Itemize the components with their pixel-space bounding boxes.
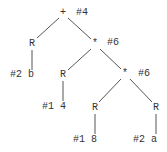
node-plus: + (60, 8, 66, 18)
node-r-left: R (29, 39, 35, 49)
node-mul-2: * (122, 69, 128, 79)
leaf-left: #2 b (10, 70, 34, 80)
leaf-a: #1 8 (73, 135, 97, 145)
node-plus-annotation: #4 (76, 8, 88, 18)
node-r-a: R (92, 103, 98, 113)
node-mul-1: * (92, 39, 98, 49)
node-r-mid: R (60, 70, 66, 80)
leaf-mid: #1 4 (42, 102, 66, 112)
node-r-b: R (153, 103, 159, 113)
node-mul-1-annotation: #6 (107, 38, 119, 48)
node-mul-2-annotation: #6 (138, 69, 150, 79)
leaf-b: #2 a (133, 135, 157, 145)
